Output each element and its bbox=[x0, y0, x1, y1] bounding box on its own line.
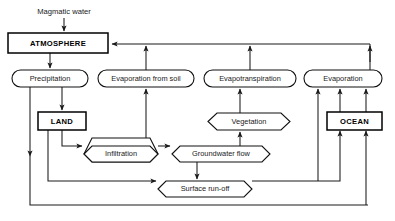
node-infiltration-label: Infiltration bbox=[105, 149, 137, 158]
node-precipitation-label: Precipitation bbox=[30, 74, 71, 83]
node-evaporation-from-soil-label: Evaporation from soil bbox=[111, 74, 181, 83]
node-atmosphere[interactable]: ATMOSPHERE bbox=[8, 33, 108, 53]
node-precipitation[interactable]: Precipitation bbox=[12, 70, 88, 87]
node-land[interactable]: LAND bbox=[38, 112, 86, 130]
node-atmosphere-label: ATMOSPHERE bbox=[30, 39, 86, 48]
node-infiltration[interactable]: Infiltration bbox=[84, 138, 158, 162]
hydrological-cycle-diagram: ATMOSPHERE Precipitation Evaporation fro… bbox=[0, 0, 395, 221]
node-layer: ATMOSPHERE Precipitation Evaporation fro… bbox=[8, 33, 382, 197]
node-land-label: LAND bbox=[51, 117, 74, 126]
node-evapotranspiration-label: Evapotranspiration bbox=[219, 74, 281, 83]
node-evaporation[interactable]: Evaporation bbox=[304, 70, 382, 87]
node-surface-run-off[interactable]: Surface run-off bbox=[158, 181, 252, 197]
clipped-top-caption bbox=[30, 0, 210, 3]
label-magmatic-water: Magmatic water bbox=[37, 7, 91, 16]
free-label-layer: Magmatic water bbox=[37, 7, 91, 16]
node-evapotranspiration[interactable]: Evapotranspiration bbox=[204, 70, 296, 87]
node-surface-run-off-label: Surface run-off bbox=[181, 184, 231, 193]
node-evaporation-label: Evaporation bbox=[323, 74, 362, 83]
node-vegetation-label: Vegetation bbox=[232, 117, 267, 126]
edge-land-to-infiltration bbox=[62, 130, 82, 146]
node-groundwater-flow-label: Groundwater flow bbox=[192, 149, 251, 158]
diagram-canvas: ATMOSPHERE Precipitation Evaporation fro… bbox=[0, 0, 395, 221]
node-ocean[interactable]: OCEAN bbox=[327, 112, 382, 130]
node-ocean-label: OCEAN bbox=[340, 117, 369, 126]
node-evaporation-from-soil[interactable]: Evaporation from soil bbox=[98, 70, 194, 87]
node-vegetation[interactable]: Vegetation bbox=[208, 113, 290, 130]
node-groundwater-flow[interactable]: Groundwater flow bbox=[172, 146, 270, 162]
